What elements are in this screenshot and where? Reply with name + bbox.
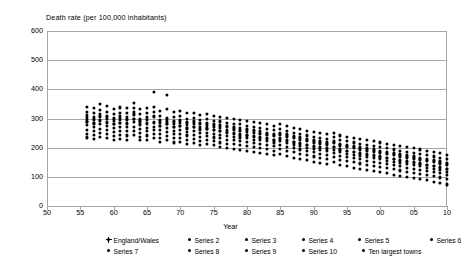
data-point bbox=[105, 137, 108, 140]
y-axis-tick-labels: 0100200300400500600 bbox=[13, 31, 43, 206]
data-point bbox=[319, 156, 322, 159]
data-point bbox=[85, 123, 88, 126]
legend-item[interactable]: England/Wales bbox=[107, 234, 159, 246]
data-point bbox=[179, 136, 182, 139]
data-point bbox=[205, 143, 208, 146]
data-point bbox=[112, 123, 115, 126]
data-point bbox=[372, 140, 375, 143]
data-point bbox=[165, 108, 168, 111]
data-point bbox=[372, 164, 375, 167]
x-tick-label: 55 bbox=[76, 209, 84, 216]
data-point bbox=[292, 126, 295, 129]
data-point bbox=[259, 122, 262, 125]
data-point bbox=[412, 147, 415, 150]
data-point bbox=[132, 107, 135, 110]
data-point bbox=[245, 140, 248, 143]
data-point bbox=[179, 128, 182, 131]
legend-item[interactable]: Series 10 bbox=[302, 245, 337, 257]
x-tick-label: 10 bbox=[443, 209, 451, 216]
data-point bbox=[112, 139, 115, 142]
data-point bbox=[192, 141, 195, 144]
legend-marker-icon bbox=[188, 249, 191, 252]
data-point bbox=[99, 108, 102, 111]
data-point bbox=[219, 137, 222, 140]
legend-marker-icon bbox=[302, 249, 305, 252]
data-point bbox=[259, 139, 262, 142]
data-point bbox=[332, 151, 335, 154]
data-point bbox=[399, 165, 402, 168]
data-point bbox=[139, 113, 142, 116]
data-point bbox=[385, 162, 388, 165]
data-point bbox=[225, 142, 228, 145]
data-point bbox=[212, 136, 215, 139]
data-point bbox=[105, 124, 108, 127]
data-point bbox=[172, 111, 175, 114]
data-point bbox=[172, 137, 175, 140]
data-point bbox=[385, 142, 388, 145]
data-point bbox=[85, 132, 88, 135]
data-point bbox=[152, 105, 155, 108]
data-point bbox=[379, 141, 382, 144]
data-point bbox=[145, 112, 148, 115]
legend-label: Series 7 bbox=[113, 248, 138, 255]
data-point bbox=[339, 158, 342, 161]
y-tick-label: 300 bbox=[15, 115, 43, 122]
data-point bbox=[152, 137, 155, 140]
data-point bbox=[139, 123, 142, 126]
x-tick-label: 95 bbox=[343, 209, 351, 216]
x-tick-label: 50 bbox=[43, 209, 51, 216]
data-point bbox=[112, 134, 115, 137]
legend-marker-icon bbox=[245, 249, 248, 252]
data-point bbox=[125, 138, 128, 141]
data-point bbox=[232, 139, 235, 142]
legend-label: Series 9 bbox=[251, 248, 276, 255]
legend-label: Ten largest towns bbox=[368, 248, 421, 255]
data-point bbox=[265, 127, 268, 130]
data-point bbox=[119, 106, 122, 109]
data-point bbox=[145, 138, 148, 141]
data-point bbox=[299, 148, 302, 151]
legend-item[interactable]: Series 2 bbox=[188, 234, 219, 246]
data-point bbox=[165, 126, 168, 129]
data-point bbox=[152, 121, 155, 124]
data-point bbox=[392, 173, 395, 176]
data-point bbox=[219, 133, 222, 136]
legend-item[interactable]: Series 5 bbox=[358, 234, 389, 246]
data-point bbox=[219, 130, 222, 133]
data-point bbox=[105, 129, 108, 132]
data-point bbox=[99, 135, 102, 138]
data-point bbox=[339, 134, 342, 137]
data-point bbox=[279, 123, 282, 126]
legend-item[interactable]: Series 4 bbox=[302, 234, 333, 246]
legend-marker-icon bbox=[362, 249, 365, 252]
data-point bbox=[405, 175, 408, 178]
data-point bbox=[292, 156, 295, 159]
data-point bbox=[392, 164, 395, 167]
data-point bbox=[225, 131, 228, 134]
data-point bbox=[299, 157, 302, 160]
data-point bbox=[399, 169, 402, 172]
legend-item[interactable]: Series 9 bbox=[245, 245, 276, 257]
data-point bbox=[412, 171, 415, 174]
data-point bbox=[392, 168, 395, 171]
legend-label: England/Wales bbox=[113, 237, 158, 244]
data-point bbox=[279, 127, 282, 130]
data-point bbox=[192, 126, 195, 129]
data-point bbox=[92, 122, 95, 125]
data-point bbox=[252, 150, 255, 153]
data-point bbox=[92, 137, 95, 140]
data-point bbox=[359, 167, 362, 170]
data-point bbox=[92, 133, 95, 136]
legend-item[interactable]: Series 7 bbox=[107, 245, 138, 257]
data-point bbox=[379, 171, 382, 174]
data-point bbox=[225, 138, 228, 141]
legend-item[interactable]: Series 6 bbox=[430, 234, 461, 246]
legend-item[interactable]: Series 8 bbox=[188, 245, 219, 257]
data-point bbox=[212, 132, 215, 135]
legend-item[interactable]: Series 3 bbox=[245, 234, 276, 246]
data-point bbox=[192, 133, 195, 136]
data-point bbox=[199, 143, 202, 146]
data-point bbox=[159, 136, 162, 139]
legend-item[interactable]: Ten largest towns bbox=[362, 245, 421, 257]
legend-label: Series 3 bbox=[251, 237, 276, 244]
